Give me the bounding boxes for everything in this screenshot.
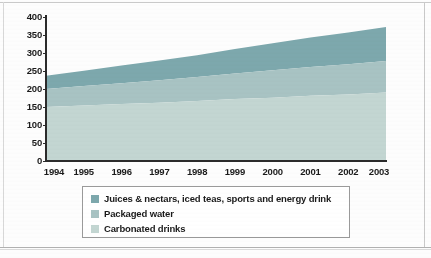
area-series-group — [46, 17, 386, 161]
stacked-area-chart: 050100150200250300350400 199419951996199… — [0, 0, 431, 258]
legend-swatch-icon — [91, 210, 99, 218]
legend-swatch-icon — [91, 195, 99, 203]
y-axis-tick-label: 0 — [2, 156, 42, 166]
x-axis: 1994199519961997199819992000200120022003 — [0, 166, 431, 182]
legend-item-label: Packaged water — [104, 209, 174, 219]
x-axis-tick-label: 1998 — [187, 166, 207, 177]
x-axis-tick-label: 1999 — [225, 166, 245, 177]
y-axis-tick-label: 400 — [2, 12, 42, 22]
x-axis-tick-label: 1996 — [111, 166, 131, 177]
legend-swatch-icon — [91, 225, 99, 233]
y-axis-tick-label: 50 — [2, 138, 42, 148]
y-axis-tick-label: 250 — [2, 66, 42, 76]
y-axis-tick-label: 300 — [2, 48, 42, 58]
chart-legend: Juices & nectars, iced teas, sports and … — [82, 186, 350, 238]
legend-item-label: Carbonated drinks — [104, 224, 185, 234]
y-axis-tick-label: 200 — [2, 84, 42, 94]
legend-item-label: Juices & nectars, iced teas, sports and … — [104, 194, 331, 204]
y-axis-tick-label: 150 — [2, 102, 42, 112]
plot-area — [46, 17, 386, 161]
x-axis-tick-label: 1997 — [149, 166, 169, 177]
y-axis-tick-label: 100 — [2, 120, 42, 130]
legend-item-packaged-water: Packaged water — [91, 207, 349, 221]
x-axis-line — [45, 160, 387, 162]
x-axis-tick-label: 1994 — [44, 166, 64, 177]
x-axis-tick-label: 2000 — [262, 166, 282, 177]
legend-item-juices-nectars: Juices & nectars, iced teas, sports and … — [91, 192, 349, 206]
y-axis-tick-label: 350 — [2, 30, 42, 40]
legend-item-carbonated-drinks: Carbonated drinks — [91, 222, 349, 236]
x-axis-tick-label: 2002 — [338, 166, 358, 177]
x-axis-tick-label: 1995 — [74, 166, 94, 177]
x-axis-tick-label: 2001 — [300, 166, 320, 177]
x-axis-tick-label: 2003 — [369, 166, 389, 177]
y-axis-line — [45, 15, 47, 162]
